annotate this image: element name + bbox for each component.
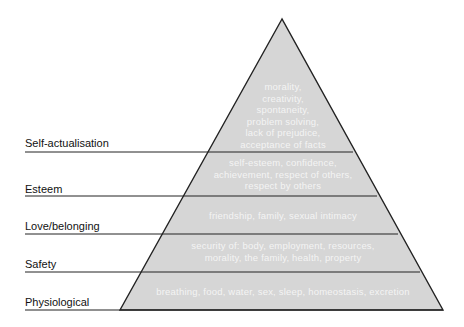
tier-content-esteem: self-esteem, confidence, achievement, re… xyxy=(214,157,353,192)
level-label-esteem: Esteem xyxy=(25,183,62,195)
tier-content-safety: security of: body, employment, resources… xyxy=(191,240,374,263)
level-label-safety: Safety xyxy=(25,258,56,270)
level-label-physiological: Physiological xyxy=(25,296,89,308)
tier-content-love-belonging: friendship, family, sexual intimacy xyxy=(209,210,357,222)
level-label-self-actualisation: Self-actualisation xyxy=(25,137,109,149)
tier-content-self-actualisation: morality, creativity, spontaneity, probl… xyxy=(240,81,326,150)
tier-content-physiological: breathing, food, water, sex, sleep, home… xyxy=(156,286,409,298)
level-label-love-belonging: Love/belonging xyxy=(25,220,100,232)
